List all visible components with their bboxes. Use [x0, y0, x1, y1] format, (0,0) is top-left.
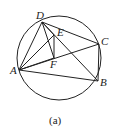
segment-AC — [19, 44, 99, 70]
figure-caption: (a) — [49, 114, 62, 127]
label-E: E — [56, 26, 64, 38]
segment-DB — [42, 22, 98, 81]
segment-DC — [42, 22, 99, 44]
label-A: A — [9, 64, 17, 76]
segment-DF — [42, 22, 54, 58]
label-F: F — [49, 58, 57, 70]
label-C: C — [101, 35, 109, 47]
label-B: B — [100, 76, 107, 88]
segment-CB — [98, 44, 99, 81]
label-D: D — [35, 9, 44, 21]
segment-AB — [19, 70, 98, 81]
geometry-figure: D E C F A B (a) — [0, 0, 117, 133]
